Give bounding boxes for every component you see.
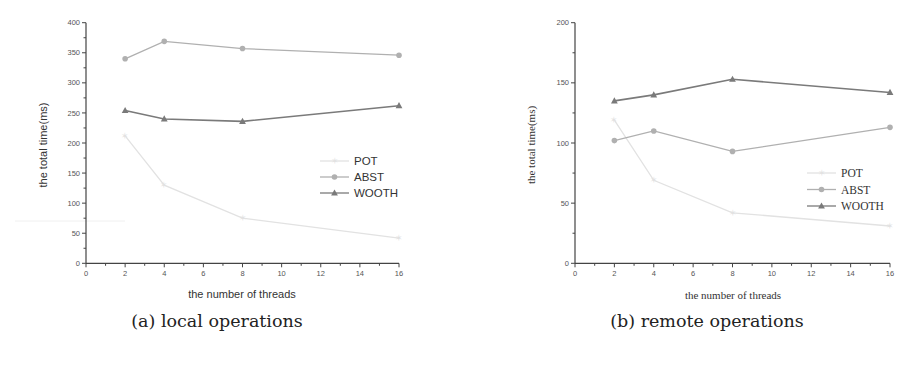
star-marker: ✶ (650, 175, 658, 185)
series-wooth (611, 76, 893, 104)
legend-item-wooth: WOOTH (320, 187, 398, 199)
y-axis-label: the total time(ms) (37, 103, 49, 188)
circle-marker (887, 125, 893, 131)
series-line (125, 41, 399, 58)
x-tick-label: 0 (84, 269, 88, 278)
y-tick-label: 350 (67, 48, 80, 57)
y-tick-label: 100 (556, 139, 569, 148)
y-tick-label: 400 (67, 18, 80, 27)
legend-label: POT (841, 167, 863, 179)
circle-marker (122, 56, 128, 62)
triangle-marker (122, 107, 129, 113)
x-axis-label: the number of threads (685, 289, 781, 301)
series-wooth (122, 102, 403, 124)
y-tick-label: 300 (67, 78, 80, 87)
y-axis-label: the total time(ms) (525, 106, 538, 185)
x-tick-label: 6 (201, 269, 205, 278)
star-marker: ✶ (160, 180, 168, 190)
x-tick-label: 12 (317, 269, 325, 278)
circle-marker (332, 174, 338, 180)
circle-marker (161, 39, 167, 45)
x-tick-label: 10 (277, 269, 285, 278)
legend-item-abst: ABST (807, 184, 870, 196)
series-line (614, 79, 890, 101)
legend-label: ABST (841, 184, 870, 196)
x-tick-label: 0 (573, 269, 577, 278)
x-tick-label: 2 (123, 269, 127, 278)
circle-marker (240, 46, 246, 52)
y-tick-label: 150 (67, 169, 80, 178)
chart-local-operations: 0246810121416050100150200250300350400 ✶✶… (37, 18, 403, 331)
x-tick-label: 14 (846, 269, 854, 278)
x-tick-label: 8 (240, 269, 244, 278)
x-tick-label: 16 (886, 269, 894, 278)
y-tick-label: 250 (67, 109, 80, 118)
series-abst (612, 125, 893, 155)
circle-marker (651, 128, 657, 134)
legend: ✶POTABSTWOOTH (320, 155, 398, 199)
caption: (b) remote operations (610, 311, 804, 331)
legend-label: POT (354, 155, 378, 167)
plot-area: ✶✶✶✶ (121, 39, 403, 243)
axes: 0246810121416050100150200250300350400 (67, 18, 403, 278)
x-tick-label: 16 (395, 269, 403, 278)
x-tick-label: 6 (691, 269, 695, 278)
x-tick-label: 4 (162, 269, 166, 278)
legend: ✶POTABSTWOOTH (807, 167, 884, 212)
y-tick-label: 150 (556, 78, 569, 87)
legend-item-pot: ✶POT (320, 155, 378, 167)
y-tick-label: 50 (72, 229, 80, 238)
star-marker: ✶ (729, 208, 737, 218)
x-tick-label: 12 (807, 269, 815, 278)
axes: 0246810121416050100150200 (556, 18, 894, 278)
star-marker: ✶ (395, 233, 403, 243)
legend-item-abst: ABST (320, 171, 384, 183)
x-tick-label: 2 (612, 269, 616, 278)
x-axis-label: the number of threads (188, 288, 296, 300)
y-tick-label: 50 (561, 199, 569, 208)
x-tick-label: 10 (768, 269, 776, 278)
legend-label: WOOTH (354, 187, 398, 199)
star-marker: ✶ (239, 213, 247, 223)
legend-label: ABST (354, 171, 384, 183)
figure: 0246810121416050100150200250300350400 ✶✶… (0, 0, 911, 368)
legend-label: WOOTH (841, 200, 884, 212)
y-tick-label: 0 (565, 259, 569, 268)
circle-marker (612, 138, 618, 144)
circle-marker (819, 187, 825, 193)
circle-marker (730, 149, 736, 155)
caption: (a) local operations (131, 311, 303, 331)
legend-item-pot: ✶POT (807, 167, 863, 179)
legend-item-wooth: WOOTH (807, 200, 884, 212)
chart-remote-operations: 0246810121416050100150200 ✶✶✶✶ ✶POTABSTW… (525, 18, 894, 331)
x-tick-label: 8 (730, 269, 734, 278)
star-marker: ✶ (818, 168, 826, 178)
y-tick-label: 200 (556, 18, 569, 27)
circle-marker (396, 52, 402, 58)
y-tick-label: 0 (76, 259, 80, 268)
x-tick-label: 4 (652, 269, 656, 278)
star-marker: ✶ (331, 156, 339, 166)
y-tick-label: 200 (67, 139, 80, 148)
x-tick-label: 14 (356, 269, 364, 278)
series-abst (122, 39, 401, 62)
star-marker: ✶ (121, 131, 129, 141)
y-tick-label: 100 (67, 199, 80, 208)
star-marker: ✶ (886, 221, 894, 231)
star-marker: ✶ (610, 115, 618, 125)
